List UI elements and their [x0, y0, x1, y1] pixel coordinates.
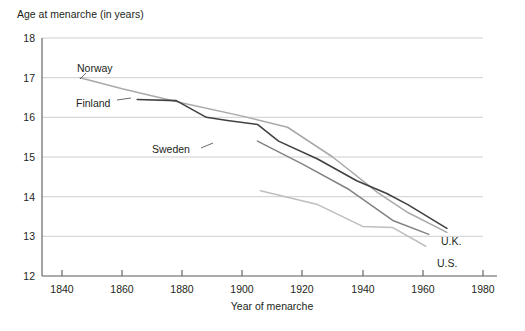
x-tick-labels: 1840 1860 1880 1900 1920 1940 1960 1980 — [50, 283, 495, 295]
y-tick-label-16: 16 — [23, 111, 35, 123]
x-tick-label-1920: 1920 — [290, 283, 314, 295]
series-label-norway: Norway — [77, 62, 113, 74]
x-tick-label-1840: 1840 — [50, 283, 74, 295]
x-tick-label-1940: 1940 — [351, 283, 375, 295]
x-tickmarks — [62, 270, 483, 276]
x-tick-label-1880: 1880 — [170, 283, 194, 295]
y-tick-label-17: 17 — [23, 72, 35, 84]
finland-leader — [117, 98, 131, 100]
series-line-sweden — [257, 141, 428, 234]
series-line-norway — [80, 78, 447, 233]
x-tick-label-1900: 1900 — [230, 283, 254, 295]
series-line-us — [260, 191, 425, 247]
series-line-finland — [137, 99, 447, 228]
series-label-finland: Finland — [76, 97, 111, 109]
series-label-us: U.S. — [437, 257, 457, 269]
y-tick-label-12: 12 — [23, 270, 35, 282]
chart-container: Age at menarche (in years) — [0, 0, 525, 331]
series-label-sweden: Sweden — [152, 143, 190, 155]
x-axis-title: Year of menarche — [231, 300, 314, 312]
x-tick-label-1960: 1960 — [411, 283, 435, 295]
sweden-leader — [201, 143, 213, 148]
series-annotations: Norway Finland Sweden U.K. U.S. — [76, 62, 461, 269]
series-label-uk: U.K. — [441, 235, 461, 247]
y-tick-label-13: 13 — [23, 230, 35, 242]
line-chart: Age at menarche (in years) — [0, 0, 525, 331]
y-tick-label-15: 15 — [23, 151, 35, 163]
x-tick-label-1860: 1860 — [110, 283, 134, 295]
x-tick-label-1980: 1980 — [471, 283, 495, 295]
y-tick-label-18: 18 — [23, 32, 35, 44]
series-lines — [80, 78, 447, 247]
y-tick-label-14: 14 — [23, 191, 35, 203]
y-tick-labels: 18 17 16 15 14 13 12 — [23, 32, 35, 282]
y-axis-title: Age at menarche (in years) — [17, 8, 144, 20]
